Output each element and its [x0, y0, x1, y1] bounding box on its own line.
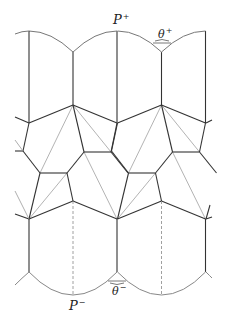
arc-stub-bottom-left — [15, 272, 29, 285]
left-boundary — [15, 31, 29, 272]
label-theta-minus: θ− — [112, 284, 126, 297]
right-boundary-stubs — [206, 120, 212, 219]
tiling-cell-right — [112, 31, 217, 295]
arc-stub-bottom-right — [206, 272, 212, 278]
tiling-svg — [0, 0, 225, 321]
label-theta-plus: θ+ — [158, 27, 172, 40]
tiling-diagram: P+ θ+ P− θ− — [0, 0, 225, 321]
left-light-stubs — [15, 140, 29, 219]
tiling-cell-left — [23, 31, 128, 295]
label-p-plus: P+ — [113, 13, 129, 26]
label-p-minus: P− — [69, 299, 85, 312]
arc-stub-top-left — [15, 31, 29, 34]
